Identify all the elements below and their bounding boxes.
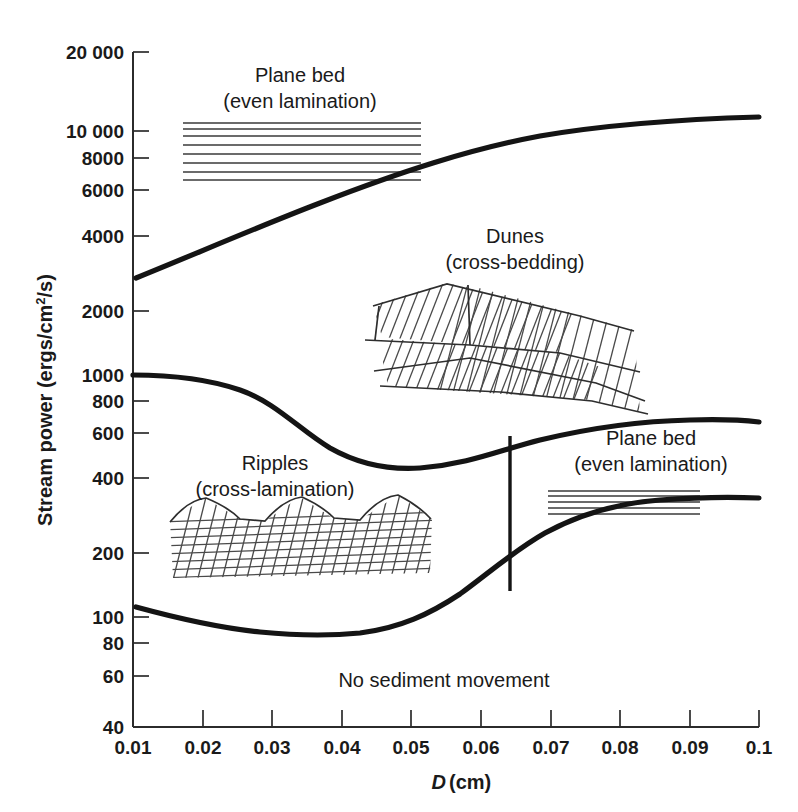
curve-sediment-movement-threshold — [136, 497, 759, 635]
y-tick-label-10000: 10 000 — [66, 121, 124, 142]
region-label-plane-bed-lower: Plane bed (even lamination) — [574, 427, 727, 475]
y-tick-label-800: 800 — [92, 391, 124, 412]
x-tick-label-0.06: 0.06 — [463, 737, 500, 758]
y-tick-label-80: 80 — [103, 633, 124, 654]
x-axis-title: D (cm) — [432, 771, 492, 793]
y-tick-label-200: 200 — [92, 543, 124, 564]
region-label-plane-bed-lower-line2: (even lamination) — [574, 453, 727, 475]
svg-text:Stream power (ergs/cm2/s): Stream power (ergs/cm2/s) — [33, 274, 57, 526]
y-tick-label-8000: 8000 — [82, 148, 124, 169]
x-tick-label-0.01: 0.01 — [115, 737, 152, 758]
x-tick-label-0.02: 0.02 — [185, 737, 222, 758]
y-axis-title-superscript: 2 — [33, 297, 48, 304]
x-ticks — [203, 710, 759, 727]
y-axis-title: Stream power (ergs/cm2/s) — [33, 274, 57, 526]
x-tick-label-0.03: 0.03 — [254, 737, 291, 758]
x-tick-label-0.07: 0.07 — [533, 737, 570, 758]
y-tick-label-1000: 1000 — [82, 365, 124, 386]
x-tick-label-0.09: 0.09 — [672, 737, 709, 758]
texture-cross-lamination-ripples — [160, 488, 448, 606]
x-tick-label-0.04: 0.04 — [324, 737, 361, 758]
region-label-dunes-line1: Dunes — [486, 225, 544, 247]
region-label-ripples: Ripples (cross-lamination) — [196, 452, 355, 500]
bedform-stability-figure: 20 000 10 000 8000 6000 4000 2000 1000 8… — [0, 0, 798, 812]
region-label-dunes-line2: (cross-bedding) — [446, 251, 585, 273]
region-label-plane-bed-upper-line2: (even lamination) — [223, 90, 376, 112]
region-label-ripples-line1: Ripples — [242, 452, 309, 474]
y-tick-label-100: 100 — [92, 607, 124, 628]
region-label-no-sediment-movement-text: No sediment movement — [338, 669, 550, 691]
y-tick-label-400: 400 — [92, 468, 124, 489]
y-tick-label-6000: 6000 — [82, 180, 124, 201]
region-label-plane-bed-upper-line1: Plane bed — [255, 64, 345, 86]
y-axis-title-suffix: /s) — [34, 274, 56, 297]
texture-even-lamination-upper — [183, 123, 421, 180]
y-axis-title-prefix: Stream power (ergs/cm — [34, 305, 56, 526]
x-tick-label-0.08: 0.08 — [602, 737, 639, 758]
x-tick-label-0.05: 0.05 — [393, 737, 430, 758]
region-label-dunes: Dunes (cross-bedding) — [446, 225, 585, 273]
y-tick-label-600: 600 — [92, 423, 124, 444]
chart-svg: 20 000 10 000 8000 6000 4000 2000 1000 8… — [0, 0, 798, 812]
x-axis-title-symbol: D — [432, 771, 446, 793]
y-tick-label-4000: 4000 — [82, 226, 124, 247]
x-tick-labels: 0.01 0.02 0.03 0.04 0.05 0.06 0.07 0.08 … — [115, 737, 773, 758]
region-label-plane-bed-lower-line1: Plane bed — [606, 427, 696, 449]
x-tick-label-0.1: 0.1 — [746, 737, 773, 758]
region-label-no-sediment-movement: No sediment movement — [338, 669, 550, 691]
y-tick-label-2000: 2000 — [82, 301, 124, 322]
region-label-ripples-line2: (cross-lamination) — [196, 478, 355, 500]
y-tick-labels: 20 000 10 000 8000 6000 4000 2000 1000 8… — [66, 42, 124, 738]
y-tick-label-40: 40 — [103, 717, 124, 738]
y-tick-label-60: 60 — [103, 666, 124, 687]
region-label-plane-bed-upper: Plane bed (even lamination) — [223, 64, 376, 112]
x-axis-title-unit: (cm) — [449, 771, 491, 793]
y-ticks — [133, 131, 149, 676]
y-tick-label-20000: 20 000 — [66, 42, 124, 63]
